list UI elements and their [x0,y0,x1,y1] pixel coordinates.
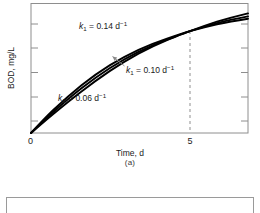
y-axis-title: BOD, mg/L [6,47,16,89]
bod-vs-time-chart: k1 = 0.14 d−1 k1 = 0.10 d−1 k1 = 0.06 d−… [0,0,260,158]
figure-panel-a: k1 = 0.14 d−1 k1 = 0.10 d−1 k1 = 0.06 d−… [0,0,260,178]
figure-panel-b-partial-box [6,197,254,213]
x-tick-label-5: 5 [187,136,192,146]
x-axis-title: Time, d [116,148,144,158]
figure-caption-a: (a) [0,158,260,167]
x-tick-label-0: 0 [28,136,33,146]
